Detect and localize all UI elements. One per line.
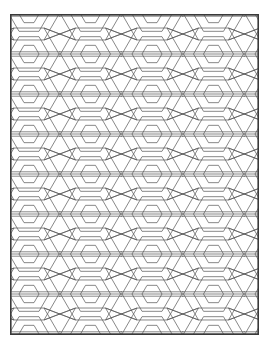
coloring-sheet: [10, 14, 259, 335]
coloring-page-canvas: [0, 0, 267, 348]
hexagon-tessellation-artwork: [10, 14, 259, 335]
